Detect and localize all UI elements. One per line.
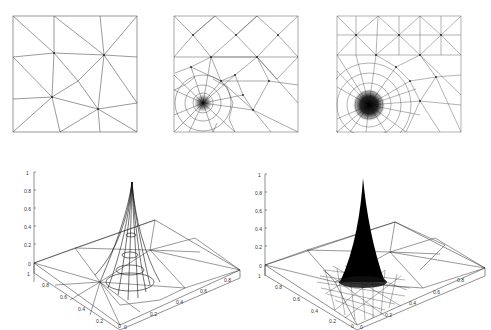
z-tick-label: 0.8 [24, 188, 31, 194]
x-tick-label: 0.2 [150, 311, 157, 317]
x-tick-label: 0.6 [200, 288, 207, 294]
x-tick-label: 0 [360, 324, 363, 330]
z-tick-label: 0 [28, 261, 31, 267]
y-tick-label: 1 [258, 273, 261, 279]
z-tick-label: 1 [26, 170, 29, 176]
x-tick-label: 0.6 [433, 289, 440, 295]
z-tick-label: 0.6 [24, 206, 31, 212]
z-tick-label: 0.8 [255, 190, 262, 196]
surface-panel-right: 1 0.8 0.6 0.4 0.2 0 1 0.8 0.6 0.4 0.2 0 … [245, 170, 491, 330]
z-tick-label: 0.6 [255, 208, 262, 214]
refined-mesh-plot-2 [336, 15, 462, 133]
surface-panel-left: 1 0.8 0.6 0.4 0.2 0 1 0.8 0.6 0.4 0.2 0 … [0, 170, 245, 330]
mesh-panel-refined-2 [336, 15, 462, 133]
y-tick-label: 0.6 [60, 294, 67, 300]
z-tick-label: 1 [258, 172, 261, 178]
x-tick-label: 0.8 [224, 277, 231, 283]
x-tick-label: 0.2 [385, 312, 392, 318]
y-tick-label: 1 [27, 271, 30, 277]
z-tick-label: 0 [259, 263, 262, 269]
y-tick-label: 0.6 [293, 296, 300, 302]
y-tick-label: 0 [351, 323, 354, 329]
x-tick-label: 0.8 [457, 277, 464, 283]
y-tick-label: 0.4 [311, 308, 318, 314]
y-tick-label: 0.2 [96, 318, 103, 324]
y-tick-label: 0.8 [42, 282, 49, 288]
x-tick-label: 0.4 [409, 300, 416, 306]
z-tick-label: 0.4 [255, 226, 262, 232]
x-tick-label: 0 [124, 324, 127, 330]
z-tick-label: 0.4 [24, 224, 31, 230]
z-tick-label: 0.2 [255, 244, 262, 250]
refined-mesh-plot-1 [173, 15, 299, 133]
mesh-panel-coarse [12, 15, 138, 133]
y-tick-label: 0.8 [275, 284, 282, 290]
y-tick-label: 0.4 [78, 306, 85, 312]
coarse-mesh-plot [12, 15, 138, 133]
z-axis [265, 174, 267, 276]
z-tick-label: 0.2 [24, 242, 31, 248]
surface-plot-left: 1 0.8 0.6 0.4 0.2 0 1 0.8 0.6 0.4 0.2 0 … [0, 170, 245, 330]
peak-base [339, 276, 387, 288]
surface-plot-right: 1 0.8 0.6 0.4 0.2 0 1 0.8 0.6 0.4 0.2 0 … [245, 170, 491, 330]
surface-peak [340, 178, 385, 282]
y-tick-label: 0.2 [329, 318, 336, 324]
mesh-panel-refined-1 [173, 15, 299, 133]
x-tick-label: 0.4 [176, 299, 183, 305]
